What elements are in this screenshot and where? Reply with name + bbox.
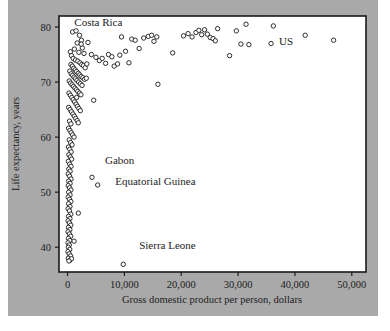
data-point <box>74 95 78 99</box>
data-point <box>67 259 71 263</box>
data-point <box>118 53 122 57</box>
data-point <box>181 34 185 38</box>
data-point <box>79 93 83 97</box>
annotation-label: Equatorial Guinea <box>115 175 195 187</box>
scatter-plot: 010,00020,00030,00040,00050,000 40506070… <box>0 0 390 331</box>
data-point <box>72 135 76 139</box>
data-point <box>152 39 156 43</box>
data-point <box>100 56 104 60</box>
data-point <box>89 52 93 56</box>
data-point <box>202 28 206 32</box>
x-axis-tick-labels: 010,00020,00030,00040,00050,000 <box>65 279 366 290</box>
data-point <box>247 42 251 46</box>
data-point <box>76 211 80 215</box>
data-point <box>121 262 125 266</box>
data-point <box>133 38 137 42</box>
data-point <box>186 31 190 35</box>
data-point <box>82 51 86 55</box>
data-point <box>110 55 114 59</box>
data-point <box>127 61 131 65</box>
data-point <box>72 47 76 51</box>
y-axis-tick-label: 70 <box>41 77 52 88</box>
data-point <box>234 29 238 33</box>
data-point <box>90 175 94 179</box>
data-point <box>84 76 88 80</box>
data-point <box>303 33 307 37</box>
y-axis-tick-labels: 4050607080 <box>41 22 52 253</box>
data-point <box>69 122 73 126</box>
data-point <box>79 42 83 46</box>
data-point <box>80 83 84 87</box>
y-axis-tick-label: 50 <box>41 187 52 198</box>
data-point <box>85 62 89 66</box>
data-point <box>227 53 231 57</box>
y-axis-tick-label: 80 <box>41 22 52 33</box>
annotation-label: Costa Rica <box>74 16 122 28</box>
data-point <box>239 42 243 46</box>
data-point <box>190 35 194 39</box>
y-axis-tick-label: 60 <box>41 132 52 143</box>
y-axis-title: Life expectancy, years <box>10 97 21 191</box>
data-point <box>72 239 76 243</box>
data-point <box>171 51 175 55</box>
data-point <box>86 40 90 44</box>
data-point <box>200 33 204 37</box>
data-point <box>77 50 81 54</box>
data-point <box>271 24 275 28</box>
x-axis-tick-label: 40,000 <box>280 279 309 290</box>
data-point <box>103 61 107 65</box>
data-point <box>95 183 99 187</box>
data-point <box>119 35 123 39</box>
annotation-label: Gabon <box>105 154 135 166</box>
x-axis-title: Gross domestic product per person, dolla… <box>122 294 302 305</box>
x-axis-tick-label: 10,000 <box>110 279 139 290</box>
plot-area-background <box>59 16 366 272</box>
annotation-label: Sierra Leone <box>139 239 196 251</box>
x-axis-tick-label: 20,000 <box>167 279 196 290</box>
data-point <box>74 29 78 33</box>
x-axis-tick-label: 30,000 <box>224 279 253 290</box>
data-point <box>91 98 95 102</box>
data-point <box>123 49 127 53</box>
data-point <box>142 36 146 40</box>
figure-container: 010,00020,00030,00040,00050,000 40506070… <box>0 0 390 331</box>
data-point <box>156 82 160 86</box>
data-point <box>213 39 217 43</box>
data-point <box>215 26 219 30</box>
data-point <box>78 108 82 112</box>
annotation-label: US <box>279 35 293 47</box>
x-axis-tick-label: 50,000 <box>337 279 366 290</box>
data-point <box>197 28 201 32</box>
data-point <box>269 41 273 45</box>
x-axis-tick-label: 0 <box>65 279 70 290</box>
y-axis-tick-label: 40 <box>41 242 52 253</box>
data-point <box>244 22 248 26</box>
data-point <box>77 33 81 37</box>
data-point <box>137 46 141 50</box>
data-point <box>331 38 335 42</box>
data-point <box>115 62 119 66</box>
data-point <box>149 33 153 37</box>
data-point <box>155 35 159 39</box>
data-point <box>76 121 80 125</box>
